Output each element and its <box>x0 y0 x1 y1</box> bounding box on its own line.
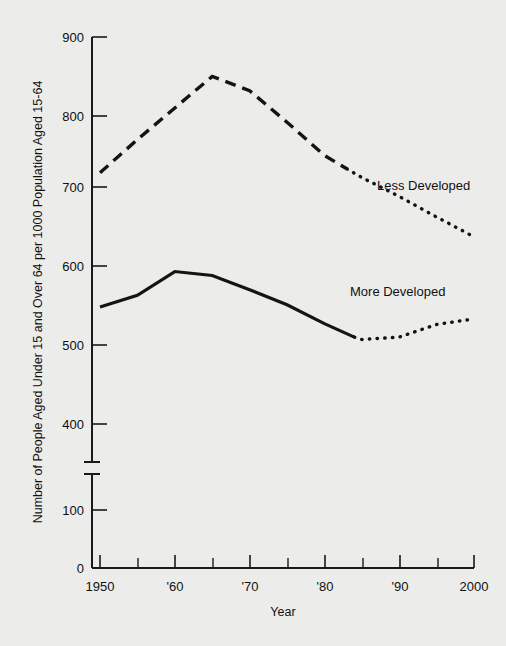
chart-background <box>0 0 506 646</box>
series-label-more-developed: More Developed <box>350 284 445 299</box>
x-axis-title: Year <box>270 605 295 619</box>
series-label-less-developed: Less Developed <box>377 178 470 193</box>
chart-figure: 900 800 700 600 500 400 100 0 Number of … <box>0 0 506 646</box>
y-tick-label-100: 100 <box>62 503 84 518</box>
x-tick-label-1990: '90 <box>392 579 409 594</box>
x-tick-label-1970: '70 <box>242 579 259 594</box>
x-tick-label-1960: '60 <box>167 579 184 594</box>
y-tick-label-500: 500 <box>62 338 84 353</box>
x-tick-label-1980: '80 <box>317 579 334 594</box>
x-tick-label-2000: 2000 <box>460 579 489 594</box>
y-tick-label-900: 900 <box>62 30 84 45</box>
y-tick-label-600: 600 <box>62 259 84 274</box>
y-tick-label-700: 700 <box>62 180 84 195</box>
y-tick-label-0: 0 <box>77 561 84 576</box>
x-tick-label-1950: 1950 <box>86 579 115 594</box>
chart-svg: 900 800 700 600 500 400 100 0 Number of … <box>0 0 506 646</box>
y-axis-title: Number of People Aged Under 15 and Over … <box>31 81 45 524</box>
y-tick-label-800: 800 <box>62 109 84 124</box>
y-tick-label-400: 400 <box>62 417 84 432</box>
